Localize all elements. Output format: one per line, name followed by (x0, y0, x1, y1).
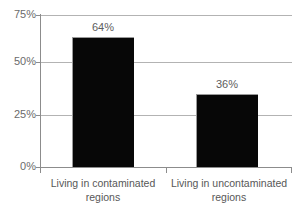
bar-value-label-uncontaminated: 36% (196, 78, 258, 90)
y-tick-mark-75 (36, 15, 40, 16)
y-tick-label-50: 50% (0, 56, 36, 67)
x-category-label-uncontaminated-line2: regions (166, 190, 292, 204)
bar-uncontaminated (196, 94, 258, 167)
bar-value-label-contaminated: 64% (72, 21, 134, 33)
x-category-label-contaminated: Living in contaminated regions (40, 176, 166, 204)
y-tick-mark-50 (36, 62, 40, 63)
x-category-label-contaminated-line2: regions (40, 190, 166, 204)
bar-contaminated (72, 37, 134, 167)
x-tick-mark-middle (166, 168, 167, 173)
y-axis-line (40, 14, 41, 168)
x-category-label-uncontaminated: Living in uncontaminated regions (166, 176, 292, 204)
x-tick-mark-left (40, 168, 41, 173)
y-tick-label-25-wrap: 25% (0, 109, 36, 120)
y-tick-label-75-wrap: 75% (0, 9, 36, 20)
y-tick-label-50-wrap: 50% (0, 56, 36, 67)
gridline-75 (40, 15, 292, 16)
y-tick-label-0: 0% (0, 161, 36, 172)
bar-chart: 75% 50% 25% 0% 64% 36% Living in contami… (0, 0, 302, 213)
y-tick-label-25: 25% (0, 109, 36, 120)
x-category-label-uncontaminated-line1: Living in uncontaminated (171, 177, 287, 189)
y-tick-label-0-wrap: 0% (0, 161, 36, 172)
x-category-label-contaminated-line1: Living in contaminated (51, 177, 155, 189)
y-tick-mark-25 (36, 115, 40, 116)
x-tick-mark-right (291, 168, 292, 173)
y-tick-label-75: 75% (0, 9, 36, 20)
